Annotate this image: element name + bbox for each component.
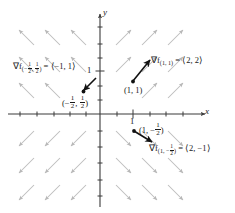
gradient-subscript-3: (1, −12): [158, 148, 176, 154]
axis-ticks: [20, 27, 183, 196]
vector-field-quadrant-lower-left: [19, 131, 86, 200]
gradient-label-neg-half-half: ∇f(−12, 12) = ⟨−1, 1⟩: [13, 62, 76, 75]
gradient-value-2: ⟨2, 2⟩: [182, 55, 203, 65]
gradient-subscript: (−12, 12): [22, 66, 42, 72]
gradient-label-one-one: ∇f(1, 1) = ⟨2, 2⟩: [151, 56, 203, 66]
x-axis-label: x: [205, 107, 209, 116]
gradient-subscript-2: (1, 1): [160, 60, 173, 66]
highlight-vector-one-one: [131, 60, 150, 83]
y-axis-label: y: [103, 8, 107, 17]
gradient-field-figure: x y 1 1 ∇f(−12, 12) = ⟨−1, 1⟩ (−12, 12) …: [0, 0, 235, 213]
point-fraction-neg-half: 12: [155, 122, 160, 138]
x-axis-tick-label-1: 1: [130, 117, 134, 126]
axes: [8, 14, 205, 207]
point-label-neg-half-half: (−12, 12): [62, 95, 88, 111]
equals-sign: =: [41, 61, 50, 71]
point-label-one-one: (1, 1): [124, 86, 142, 95]
highlight-vector-neg-half-half: [82, 78, 96, 93]
gradient-value-3: ⟨2, −1⟩: [185, 143, 211, 153]
equals-sign-3: =: [176, 143, 185, 153]
gradient-value: ⟨−1, 1⟩: [51, 61, 77, 71]
point-label-one-neg-half: (1, −12): [139, 122, 164, 138]
plot-canvas: [0, 0, 235, 213]
y-axis-tick-label-1: 1: [87, 66, 91, 75]
equals-sign-2: =: [173, 55, 182, 65]
gradient-label-one-neg-half: ∇f(1, −12) = ⟨2, −1⟩: [149, 144, 211, 157]
